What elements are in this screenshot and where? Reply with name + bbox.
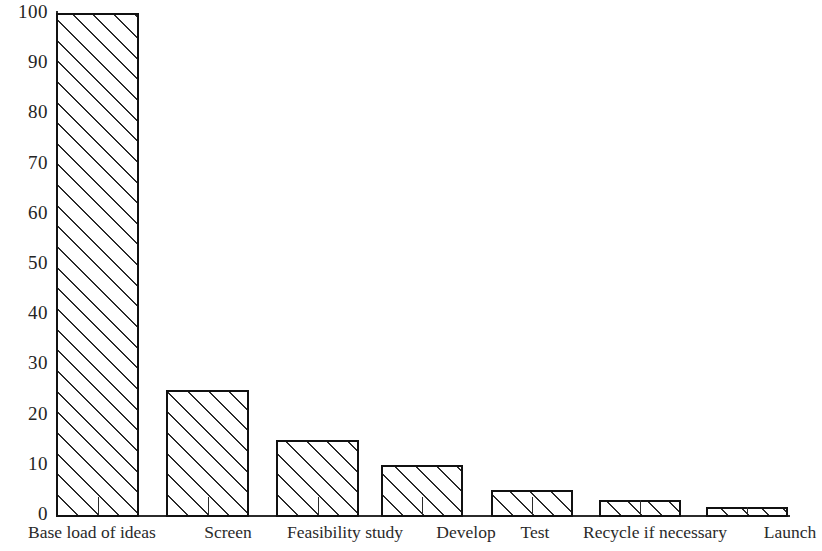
y-axis-tick-label: 30 <box>0 353 48 372</box>
x-axis-category-label: Base load of ideas <box>2 521 182 543</box>
y-axis-tick-label: 70 <box>0 153 48 172</box>
y-axis-tick-label: 100 <box>0 2 48 21</box>
x-axis-tick-mark <box>318 497 319 515</box>
y-axis-tick-label: 80 <box>0 102 48 121</box>
x-axis-tick-mark <box>98 497 99 515</box>
y-axis-tick-label: 40 <box>0 303 48 322</box>
x-axis-category-label: Launch <box>752 521 822 543</box>
x-axis-category-label: Test <box>505 521 565 543</box>
x-axis-category-label: Develop <box>420 521 512 543</box>
x-axis-tick-mark <box>747 507 748 515</box>
y-axis-tick-label: 10 <box>0 454 48 473</box>
x-axis-tick-mark <box>422 497 423 515</box>
y-axis-tick-label: 50 <box>0 253 48 272</box>
x-axis-category-label: Recycle if necessary <box>563 521 747 543</box>
y-axis-tick-label: 20 <box>0 404 48 423</box>
bar-chart-figure: 0102030405060708090100 Base load of idea… <box>0 0 822 551</box>
x-axis-category-label: Feasibility study <box>272 521 418 543</box>
bar-base-load-of-ideas <box>56 13 139 517</box>
y-axis-tick-label: 90 <box>0 52 48 71</box>
x-axis-category-label: Screen <box>186 521 270 543</box>
x-axis-tick-mark <box>532 497 533 515</box>
x-axis-tick-mark <box>208 497 209 515</box>
x-axis-tick-mark <box>640 500 641 515</box>
y-axis-tick-label: 60 <box>0 203 48 222</box>
